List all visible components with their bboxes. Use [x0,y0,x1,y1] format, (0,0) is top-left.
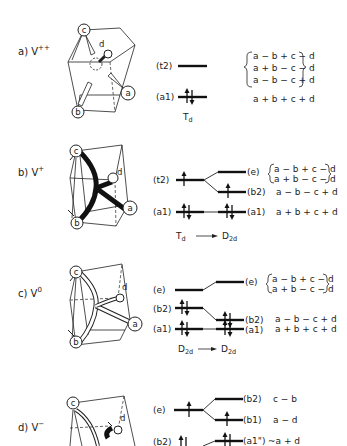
svg-text:(b2): (b2) [247,187,265,197]
svg-text:d: d [122,282,127,292]
panel-a-structure: c d a b [68,24,135,118]
panel-b-structure: c d a b [68,145,137,229]
panel-a-levels: (t2) (a1) Td [156,61,207,124]
svg-text:(e): (e) [153,405,166,415]
svg-text:a − b + c − d: a − b + c − d [272,274,334,284]
panel-d-structure: c d [67,396,135,446]
svg-text:a: a [127,203,132,213]
symmetry-label: D2d [178,344,193,356]
symmetry-label: Td [175,231,186,243]
panel-c-label: c) V0 [18,286,42,299]
panel-b-label: b) V+ [18,165,44,178]
svg-text:a − b − c + d: a − b − c + d [275,314,337,324]
svg-text:c: c [74,267,79,277]
svg-text:d: d [117,167,122,177]
panel-b-orbitals: a − b + c − d a + b − c − d a − b − c + … [268,164,338,217]
svg-text:b: b [74,218,79,228]
symmetry-label: Td [182,112,193,124]
svg-text:(b2): (b2) [153,304,171,314]
svg-text:(e): (e) [247,167,260,177]
svg-text:c: c [71,398,76,408]
svg-text:(b2): (b2) [153,437,171,446]
symmetry-label: D2d [222,231,237,243]
symmetry-label: D2d [221,344,236,356]
svg-text:a + b − c − d: a + b − c − d [274,174,336,184]
atom-d [114,426,122,434]
svg-text:a − b − c + d: a − b − c + d [276,187,338,197]
svg-text:a: a [125,88,130,98]
svg-text:(b2): (b2) [245,315,263,325]
level-label: (a1) [156,92,174,102]
svg-text:c: c [82,25,87,35]
svg-text:(b2): (b2) [243,394,261,404]
atom-d [116,294,124,302]
panel-c-structure: c d a b [68,264,142,348]
svg-text:(t2): (t2) [153,175,169,185]
panel-c: c) V0 c d a b (e) [18,264,337,356]
svg-text:(a1): (a1) [153,207,171,217]
svg-text:a + b + c + d: a + b + c + d [275,324,337,334]
atom-d [104,50,112,58]
panel-d-levels: (e) (b2) (b1) (b2) (a1") [153,394,265,446]
vacancy-orbital-diagram: a) V++ c d a b (t2) [0,0,347,446]
panel-d-label: d) V− [18,420,44,433]
svg-text:a + b + c + d: a + b + c + d [276,207,338,217]
panel-d-orbitals: c − b a − d ~a + d [268,394,300,446]
svg-text:a − b − c + d: a − b − c + d [253,75,315,85]
panel-a: a) V++ c d a b (t2) [18,24,315,124]
svg-text:d: d [120,413,125,423]
svg-text:d: d [99,39,104,49]
panel-a-label: a) V++ [18,44,50,57]
svg-text:b: b [73,337,78,347]
svg-text:a + b + c + d: a + b + c + d [253,94,315,104]
svg-text:a + b − c − d: a + b − c − d [253,63,315,73]
svg-text:(e): (e) [153,285,166,295]
svg-text:~a + d: ~a + d [268,436,300,446]
svg-text:(a1): (a1) [245,325,263,335]
svg-text:a − d: a − d [273,415,298,425]
panel-b: b) V+ c d a b (t2) [18,145,338,243]
svg-text:b: b [75,107,80,117]
svg-text:(a1): (a1) [153,324,171,334]
svg-text:c: c [74,146,79,156]
panel-d: d) V− c d (e) (b2) (b1) [18,394,300,446]
panel-c-levels: (e) (e) (b2) (b2) (a1) (a1) D2d D2d [153,277,263,356]
panel-a-orbitals: a − b + c − d a + b − c − d a − b − c + … [244,51,315,104]
panel-b-levels: (t2) (e) (b2) (a1) (a1) Td D2d [153,167,265,243]
svg-text:(b1): (b1) [243,415,261,425]
electron-up-icon [179,435,184,446]
svg-text:(a1): (a1) [247,207,265,217]
electron-up-icon [182,171,187,186]
svg-text:(e): (e) [245,277,258,287]
svg-text:(a1"): (a1") [243,436,265,446]
svg-text:c − b: c − b [273,394,297,404]
svg-text:a − b + c − d: a − b + c − d [253,51,315,61]
svg-text:a: a [132,319,137,329]
svg-text:a − b + c − d: a − b + c − d [274,164,336,174]
electron-up-icon [226,183,231,198]
svg-text:a + b − c − d: a + b − c − d [272,284,334,294]
electron-up-icon [225,411,230,426]
panel-c-orbitals: a − b + c − d a + b − c − d a − b − c + … [266,274,337,334]
electron-pair-icon [223,432,231,446]
level-label: (t2) [156,61,172,71]
